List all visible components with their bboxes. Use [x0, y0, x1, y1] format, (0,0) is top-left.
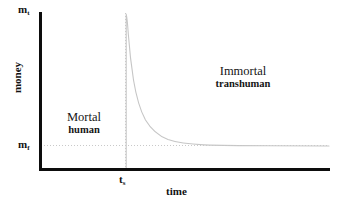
vertical-guide-line-ts: [125, 13, 126, 170]
y-tick-label-mt: mt: [18, 4, 30, 15]
money-vs-time-chart: mt mf ts money time Mortal human Immorta…: [0, 0, 338, 206]
y-tick-mt-sub: t: [27, 9, 29, 17]
x-tick-ts-sub: s: [123, 179, 126, 187]
immortal-region-annotation: Immortal transhuman: [205, 64, 281, 90]
immortal-region-primary-label: Immortal: [205, 64, 281, 78]
y-tick-mf-main: m: [18, 138, 27, 150]
mortal-region-primary-label: Mortal: [56, 110, 112, 124]
y-tick-label-mf: mf: [18, 139, 30, 150]
immortal-region-secondary-label: transhuman: [205, 78, 281, 90]
x-axis-line: [39, 168, 330, 171]
mortal-region-secondary-label: human: [56, 124, 112, 136]
mortal-region-annotation: Mortal human: [56, 110, 112, 136]
y-tick-mt-main: m: [18, 3, 27, 15]
y-tick-mf-sub: f: [27, 144, 29, 152]
decay-curve: [0, 0, 338, 206]
y-axis-line: [39, 12, 42, 171]
y-axis-title: money: [12, 55, 23, 101]
x-tick-label-ts: ts: [119, 174, 125, 185]
x-axis-title: time: [166, 186, 187, 197]
horizontal-guide-line-mf: [41, 145, 329, 146]
